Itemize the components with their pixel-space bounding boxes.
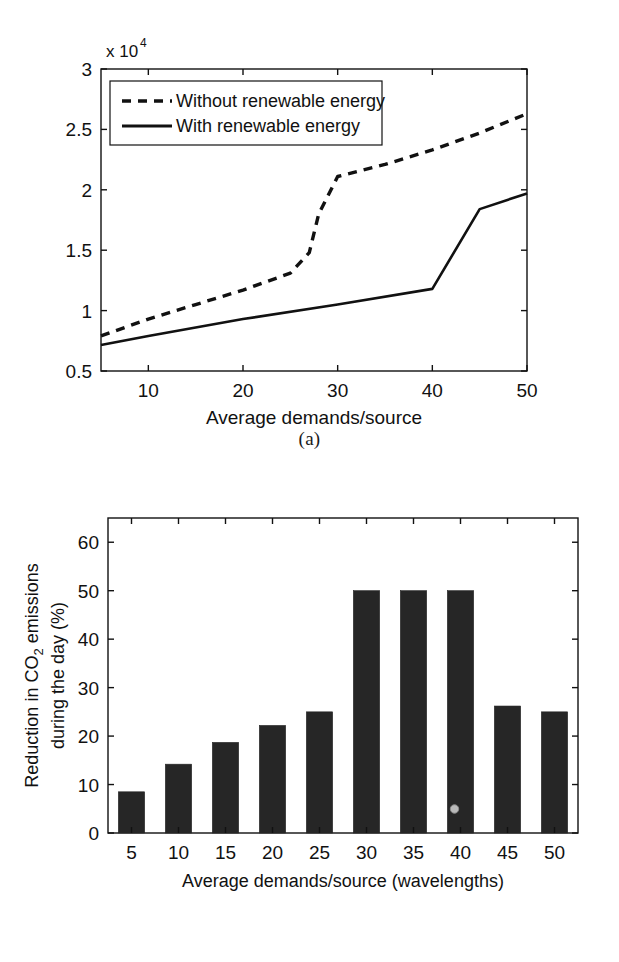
panel-a-ytick-label: 1 xyxy=(81,301,92,322)
panel-b-xtick-label: 40 xyxy=(450,842,471,863)
panel-a-xtick-label: 30 xyxy=(327,380,348,401)
panel-b-bar xyxy=(212,742,238,833)
scan-artifact-speck xyxy=(450,805,458,813)
panel-b-bar xyxy=(353,591,379,833)
panel-b-ytick-label: 40 xyxy=(78,629,99,650)
panel-a-legend-label: With renewable energy xyxy=(176,116,360,136)
axis-multiplier-base: x 10 xyxy=(106,42,138,61)
bar-chart-svg: 01020304050605101520253035404550Average … xyxy=(0,470,619,962)
panel-b-xaxis-title: Average demands/source (wavelengths) xyxy=(182,871,504,891)
panel-b-ytick-label: 30 xyxy=(78,678,99,699)
line-chart-svg: 10203040500.511.522.53x 104Average deman… xyxy=(0,0,619,470)
yaxis-title-subscript: 2 xyxy=(31,648,46,655)
panel-a-series-with-renewable xyxy=(101,193,527,345)
axis-multiplier-exponent: 4 xyxy=(140,36,147,50)
panel-b-xtick-label: 25 xyxy=(309,842,330,863)
panel-b-xtick-label: 10 xyxy=(168,842,189,863)
panel-a-caption: (a) xyxy=(0,428,619,450)
figure-container: 10203040500.511.522.53x 104Average deman… xyxy=(0,0,619,962)
panel-b-xtick-label: 45 xyxy=(497,842,518,863)
panel-b-xtick-label: 30 xyxy=(356,842,377,863)
panel-b-xtick-label: 20 xyxy=(262,842,283,863)
panel-b-bar xyxy=(447,591,473,833)
yaxis-title-part-b: emissions xyxy=(22,563,42,648)
panel-b-yaxis-title-line2: during the day (%) xyxy=(48,602,68,749)
panel-b-bar xyxy=(118,792,144,833)
panel-a-axis-multiplier: x 104 xyxy=(106,36,147,61)
panel-a-xtick-label: 40 xyxy=(422,380,443,401)
panel-b-bar-chart: 01020304050605101520253035404550Average … xyxy=(0,470,619,962)
panel-b-ytick-label: 20 xyxy=(78,726,99,747)
panel-b-ytick-label: 60 xyxy=(78,532,99,553)
panel-a-xtick-label: 20 xyxy=(232,380,253,401)
svg-text:Reduction in CO2 emissions: Reduction in CO2 emissions xyxy=(22,563,46,787)
panel-b-ytick-label: 0 xyxy=(88,823,99,844)
panel-a-xtick-label: 50 xyxy=(516,380,537,401)
panel-b-yaxis-title-line1: Reduction in CO2 emissions xyxy=(22,563,46,787)
panel-a-xaxis-title: Average demands/source xyxy=(206,407,422,428)
panel-b-bar xyxy=(165,764,191,833)
panel-a-series-without-renewable xyxy=(101,114,527,336)
panel-b-bar xyxy=(400,591,426,833)
panel-a-ytick-label: 2 xyxy=(81,180,92,201)
panel-b-bar xyxy=(494,706,520,833)
panel-b-xtick-label: 50 xyxy=(544,842,565,863)
panel-b-bar xyxy=(306,712,332,833)
panel-b-xtick-label: 15 xyxy=(215,842,236,863)
panel-a-xtick-label: 10 xyxy=(138,380,159,401)
panel-b-ytick-label: 50 xyxy=(78,581,99,602)
panel-b-ytick-label: 10 xyxy=(78,775,99,796)
panel-a-line-chart: 10203040500.511.522.53x 104Average deman… xyxy=(0,0,619,470)
panel-a-ytick-label: 1.5 xyxy=(66,240,92,261)
panel-a-ytick-label: 2.5 xyxy=(66,119,92,140)
panel-b-bar xyxy=(541,712,567,833)
panel-a-ytick-label: 0.5 xyxy=(66,361,92,382)
panel-a-legend-label: Without renewable energy xyxy=(176,91,385,111)
panel-a-ytick-label: 3 xyxy=(81,59,92,80)
panel-b-xtick-label: 5 xyxy=(126,842,137,863)
yaxis-title-part-a: Reduction in CO xyxy=(22,656,42,788)
panel-b-xtick-label: 35 xyxy=(403,842,424,863)
panel-b-bar xyxy=(259,725,285,833)
svg-text:during the day (%): during the day (%) xyxy=(48,602,68,749)
